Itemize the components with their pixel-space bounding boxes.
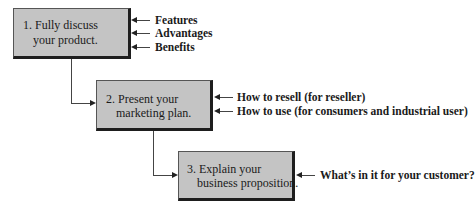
arrow-resell-icon	[214, 94, 220, 100]
arrow-customer-line	[301, 175, 315, 176]
step-2-box: 2. Present your marketing plan.	[96, 80, 213, 131]
connector-2-3-horizontal	[153, 175, 173, 176]
label-advantages: Advantages	[155, 27, 213, 40]
connector-1-2-vertical	[71, 59, 72, 104]
step-1-line1: 1. Fully discuss	[23, 18, 98, 33]
label-whats-in-it: What’s in it for your customer?	[320, 169, 475, 182]
label-features: Features	[155, 14, 198, 27]
label-benefits: Benefits	[155, 41, 195, 54]
connector-1-2-horizontal	[71, 103, 91, 104]
arrow-customer-icon	[296, 172, 302, 178]
arrow-advantages-line	[136, 33, 150, 34]
label-how-to-use: How to use (for consumers and industrial…	[237, 105, 468, 118]
step-3-line1: 3. Explain your	[187, 162, 261, 177]
arrow-use-line	[219, 111, 233, 112]
connector-2-3-vertical	[153, 131, 154, 176]
label-how-to-resell: How to resell (for reseller)	[237, 91, 365, 104]
arrow-benefits-line	[136, 47, 150, 48]
step-1-box: 1. Fully discuss your product.	[13, 8, 131, 59]
arrow-advantages-icon	[131, 30, 137, 36]
step-2-line1: 2. Present your	[106, 92, 178, 107]
arrow-use-icon	[214, 108, 220, 114]
step-2-line2: marketing plan.	[116, 106, 191, 121]
step-3-box: 3. Explain your business proposition.	[178, 151, 295, 201]
arrow-features-icon	[131, 17, 137, 23]
step-3-line2: business proposition.	[197, 176, 298, 191]
step-1-line2: your product.	[33, 33, 98, 48]
arrow-benefits-icon	[131, 44, 137, 50]
arrow-features-line	[136, 20, 150, 21]
arrow-resell-line	[219, 97, 233, 98]
